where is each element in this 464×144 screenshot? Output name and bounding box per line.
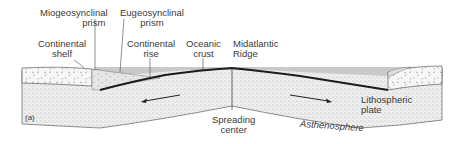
label-continental-shelf: Continental shelf (38, 39, 86, 59)
label-oceanic-crust: Oceanic crust (186, 39, 221, 59)
label-eugeosynclinal-prism: Eugeosynclinal prism (120, 8, 184, 28)
panel-label: (a) (25, 113, 35, 123)
left-continental-crust (22, 67, 92, 86)
label-lithospheric-plate: Lithospheric plate (361, 95, 412, 115)
label-continental-rise: Continental rise (127, 39, 175, 59)
label-miogeosynclinal-prism: Miogeosynclinal prism (40, 8, 108, 28)
label-midatlantic-ridge: Midatlantic Ridge (233, 39, 278, 59)
label-spreading-center: Spreading center (212, 115, 255, 135)
